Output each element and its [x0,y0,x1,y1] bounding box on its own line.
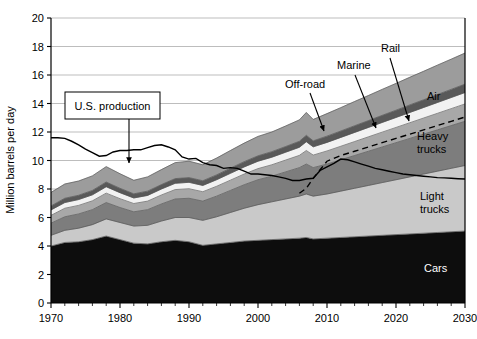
y-tick-label-16: 16 [32,69,44,81]
y-axis-title: Million barrels per day [4,106,16,214]
series-label-trucks: trucks [417,143,447,155]
y-tick-label-2: 2 [38,269,44,281]
series-label-air: Air [427,90,441,102]
x-tick-label-2020: 2020 [384,312,408,324]
x-tick-label-1980: 1980 [108,312,132,324]
annotation-label-marine: Marine [337,59,371,71]
stacked-area-chart: 02468101214161820 1970198019902000201020… [0,0,477,339]
y-tick-label-12: 12 [32,126,44,138]
y-tick-label-0: 0 [38,297,44,309]
annotation-label-u-s-production: U.S. production [75,100,151,112]
y-tick-label-18: 18 [32,41,44,53]
y-tick-label-14: 14 [32,98,44,110]
chart-figure: 02468101214161820 1970198019902000201020… [0,0,477,339]
series-label-light: Light [420,190,444,202]
y-tick-label-10: 10 [32,155,44,167]
x-tick-label-2010: 2010 [315,312,339,324]
series-label-cars: Cars [424,262,448,274]
x-tick-label-1970: 1970 [39,312,63,324]
y-tick-label-20: 20 [32,12,44,24]
area-cars [51,231,465,303]
series-label-trucks: trucks [420,203,450,215]
series-label-heavy: Heavy [417,130,449,142]
y-tick-label-8: 8 [38,183,44,195]
x-tick-label-2000: 2000 [246,312,270,324]
annotation-label-off-road: Off-road [285,78,325,90]
x-tick-label-2030: 2030 [453,312,477,324]
y-tick-label-6: 6 [38,212,44,224]
y-tick-label-4: 4 [38,240,44,252]
x-tick-label-1990: 1990 [177,312,201,324]
annotation-label-rail: Rail [381,42,400,54]
